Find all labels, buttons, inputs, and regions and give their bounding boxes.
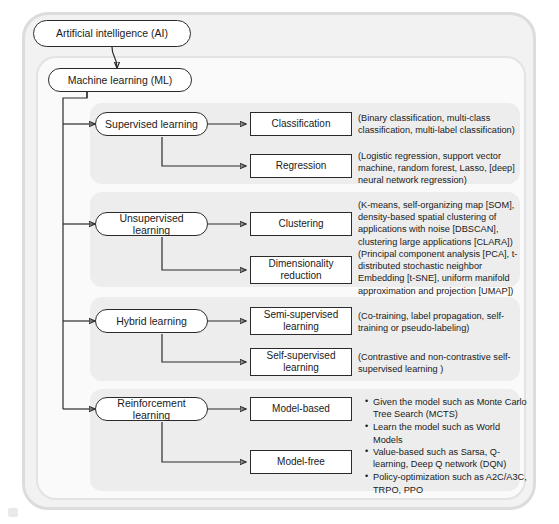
node-label: Clustering bbox=[278, 218, 323, 230]
node-label: Hybrid learning bbox=[116, 315, 187, 327]
node-semi-supervised-learning[interactable]: Semi-supervised learning bbox=[250, 307, 352, 335]
diagram-canvas: Artificial intelligence (AI) Machine lea… bbox=[0, 0, 559, 524]
desc-semi-supervised: (Co-training, label propagation, self-tr… bbox=[358, 310, 526, 334]
desc-text: (Contrastive and non-contrastive self-su… bbox=[358, 352, 511, 374]
list-item: Policy-optimization such as A2C/A3C, TRP… bbox=[373, 471, 534, 495]
node-model-free[interactable]: Model-free bbox=[250, 450, 352, 474]
node-classification[interactable]: Classification bbox=[250, 112, 352, 136]
desc-text: (Principal component analysis [PCA], t-d… bbox=[358, 249, 517, 296]
bullet-list-model-based: Given the model such as Monte Carlo Tree… bbox=[364, 396, 532, 446]
desc-model-free: Value-based such as Sarsa, Q-learning, D… bbox=[364, 446, 534, 497]
desc-text: (Logistic regression, support vector mac… bbox=[358, 151, 515, 185]
node-label: Classification bbox=[272, 118, 331, 130]
desc-text: (K-means, self-organizing map [SOM], den… bbox=[358, 200, 514, 247]
node-label: Model-free bbox=[277, 456, 325, 468]
desc-text: (Binary classification, multi-class clas… bbox=[358, 113, 515, 135]
scan-artifact bbox=[8, 508, 18, 517]
desc-self-supervised: (Contrastive and non-contrastive self-su… bbox=[358, 351, 526, 375]
node-reinforcement-learning[interactable]: Reinforcement learning bbox=[95, 397, 208, 421]
node-label: Unsupervised learning bbox=[102, 212, 201, 236]
node-dimensionality-reduction[interactable]: Dimensionality reduction bbox=[250, 256, 352, 284]
node-supervised-learning[interactable]: Supervised learning bbox=[95, 112, 208, 136]
node-label: Semi-supervised learning bbox=[255, 309, 347, 333]
desc-text: (Co-training, label propagation, self-tr… bbox=[358, 311, 504, 333]
node-unsupervised-learning[interactable]: Unsupervised learning bbox=[95, 212, 208, 236]
node-label: Regression bbox=[276, 160, 327, 172]
node-machine-learning[interactable]: Machine learning (ML) bbox=[48, 68, 192, 92]
list-item: Value-based such as Sarsa, Q-learning, D… bbox=[373, 446, 534, 470]
node-regression[interactable]: Regression bbox=[250, 154, 352, 178]
list-item: Given the model such as Monte Carlo Tree… bbox=[373, 396, 532, 420]
desc-classification: (Binary classification, multi-class clas… bbox=[358, 112, 523, 136]
desc-dimensionality-reduction: (Principal component analysis [PCA], t-d… bbox=[358, 248, 530, 297]
node-artificial-intelligence[interactable]: Artificial intelligence (AI) bbox=[33, 20, 191, 47]
node-label: Supervised learning bbox=[105, 118, 198, 130]
desc-clustering: (K-means, self-organizing map [SOM], den… bbox=[358, 199, 528, 248]
list-item: Learn the model such as World Models bbox=[373, 421, 532, 445]
node-label: Reinforcement learning bbox=[102, 397, 201, 421]
node-model-based[interactable]: Model-based bbox=[250, 397, 352, 421]
node-label: Dimensionality reduction bbox=[255, 258, 347, 282]
node-self-supervised-learning[interactable]: Self-supervised learning bbox=[250, 348, 352, 376]
node-label: Self-supervised learning bbox=[255, 350, 347, 374]
bullet-list-model-free: Value-based such as Sarsa, Q-learning, D… bbox=[364, 446, 534, 496]
node-clustering[interactable]: Clustering bbox=[250, 212, 352, 236]
desc-model-based: Given the model such as Monte Carlo Tree… bbox=[364, 396, 532, 447]
node-label: Machine learning (ML) bbox=[68, 74, 172, 86]
node-label: Artificial intelligence (AI) bbox=[56, 27, 168, 39]
node-hybrid-learning[interactable]: Hybrid learning bbox=[95, 309, 208, 333]
desc-regression: (Logistic regression, support vector mac… bbox=[358, 150, 528, 187]
node-label: Model-based bbox=[272, 403, 330, 415]
